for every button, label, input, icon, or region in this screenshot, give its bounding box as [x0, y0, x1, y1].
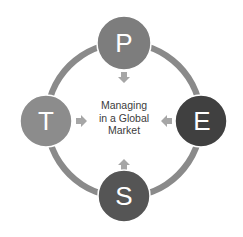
node-p-label: P — [115, 28, 132, 58]
center-label: Managing in a Global Market — [82, 99, 166, 137]
arrow-up-icon — [118, 159, 130, 170]
node-t-label: T — [38, 106, 54, 136]
node-e-label: E — [193, 106, 210, 136]
arrow-down-icon — [118, 72, 130, 83]
node-t: T — [20, 95, 72, 147]
center-label-line-1: Managing — [82, 99, 166, 112]
node-p: P — [97, 16, 151, 70]
center-label-line-3: Market — [82, 124, 166, 137]
node-s-label: S — [115, 181, 132, 211]
node-e: E — [175, 95, 227, 147]
node-s: S — [98, 170, 150, 222]
center-label-line-2: in a Global — [82, 112, 166, 125]
